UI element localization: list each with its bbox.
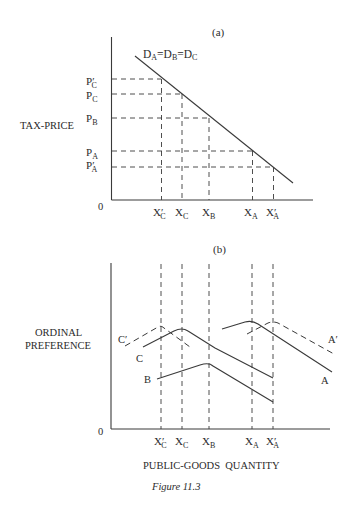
price-label-pb: PB (86, 112, 97, 127)
demand-label: DA=DB=DC (143, 48, 197, 62)
curve-a (222, 321, 332, 372)
panel-a-label: (a) (212, 26, 225, 39)
qty-label-b-xa: XA (245, 435, 259, 450)
curve-c (143, 329, 273, 378)
qty-label-b-xb: XB (202, 435, 215, 450)
panel-b-x-axis-label: PUBLIC-GOODS QUANTITY (143, 460, 280, 471)
figure-canvas: (a) DA=DB=DC TAX-PRICE P′C PC PB PA P′A … (0, 0, 353, 509)
qty-label-a-xc: XC (175, 206, 188, 221)
panel-b-origin: 0 (98, 426, 103, 437)
price-label-pc-prime: P′C (86, 75, 97, 90)
price-label-pc: PC (86, 89, 97, 104)
curve-label-a-prime: A′ (328, 334, 338, 345)
qty-label-a-xc-prime: X′C (153, 206, 166, 221)
curve-label-b: B (144, 374, 151, 385)
panel-a-origin: 0 (98, 201, 103, 212)
panel-a: (a) DA=DB=DC TAX-PRICE P′C PC PB PA P′A … (20, 26, 313, 221)
panel-b-y-axis-label-line1: ORDINAL (35, 327, 82, 338)
price-label-pa-prime: P′A (86, 159, 98, 174)
qty-label-a-xa: XA (244, 206, 258, 221)
panel-b-label: (b) (213, 243, 226, 256)
qty-label-a-xb: XB (202, 206, 215, 221)
figure-caption: Figure 11.3 (151, 481, 200, 492)
qty-label-b-xc: XC (175, 435, 188, 450)
curve-label-c: C (136, 353, 143, 364)
curve-label-a: A (321, 375, 329, 386)
demand-curve (135, 56, 293, 183)
curve-a-prime (247, 322, 334, 354)
panel-b-y-axis-label-line2: PREFERENCE (25, 340, 91, 351)
panel-a-y-axis-label: TAX-PRICE (20, 120, 74, 131)
qty-label-b-xa-prime: X′A (266, 435, 279, 450)
qty-label-a-xa-prime: X′A (266, 206, 279, 221)
qty-label-b-xc-prime: X′C (154, 435, 167, 450)
curve-label-c-prime: C′ (118, 334, 127, 345)
panel-b: (b) C′ C B A A′ ORDINAL PREFERENCE 0 X′C (25, 243, 338, 471)
